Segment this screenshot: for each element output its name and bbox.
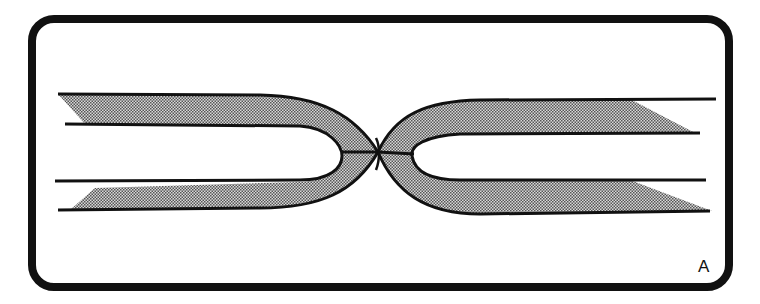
diagram-figure: A <box>0 0 760 304</box>
right-loop <box>378 99 716 214</box>
panel-label: A <box>698 258 709 275</box>
left-loop <box>55 94 378 210</box>
strand-diagram <box>0 0 760 304</box>
